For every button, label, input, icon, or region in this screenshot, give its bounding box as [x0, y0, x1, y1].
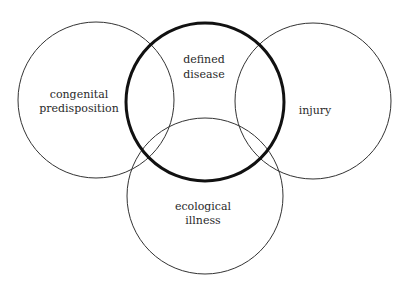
venn-diagram: defined disease congenital predispositio…	[0, 0, 411, 284]
ecological-illness-circle	[127, 118, 283, 274]
injury-label: injury	[299, 104, 332, 117]
defined-disease-label-line1: defined	[183, 53, 225, 66]
ecological-illness-label-line1: ecological	[175, 200, 232, 213]
defined-disease-circle	[126, 23, 284, 181]
congenital-predisposition-label-line1: congenital	[50, 88, 109, 101]
injury-circle	[235, 23, 391, 179]
congenital-predisposition-label-line2: predisposition	[39, 102, 119, 115]
defined-disease-label-line2: disease	[183, 68, 224, 81]
ecological-illness-label-line2: illness	[185, 214, 221, 227]
